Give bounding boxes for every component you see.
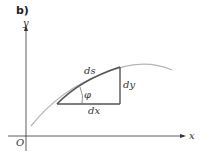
origin-label: O xyxy=(16,137,24,148)
x-axis-arrow-icon xyxy=(180,134,186,138)
angle-arc xyxy=(80,87,83,104)
y-axis-label: y xyxy=(22,17,29,28)
phi-label: φ xyxy=(84,89,91,100)
diagram: b) y x O ds dy dx φ xyxy=(0,0,207,160)
dy-label: dy xyxy=(123,79,135,90)
ds-label: ds xyxy=(84,65,96,76)
dx-label: dx xyxy=(88,105,100,116)
x-axis-label: x xyxy=(189,130,195,141)
panel-label: b) xyxy=(16,4,29,17)
